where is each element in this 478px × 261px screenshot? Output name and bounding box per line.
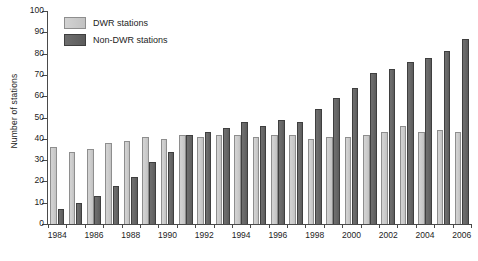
bar-dwr-2001 [363, 135, 370, 224]
y-axis-tick-label: 40 [35, 133, 44, 143]
bar-chart: Number of stations 010203040506070809010… [0, 0, 478, 261]
x-axis-tick-label: 2006 [452, 230, 471, 240]
x-axis-tick-mark [250, 224, 251, 228]
bar-non-dwr-2001 [370, 73, 377, 224]
y-axis-tick-label: 10 [35, 197, 44, 207]
bar-non-dwr-2003 [407, 62, 414, 224]
legend-item-dwr: DWR stations [64, 16, 168, 29]
x-axis-tick-mark [269, 224, 270, 228]
y-axis-tick-label: 50 [35, 112, 44, 122]
x-axis-tick-mark [140, 224, 141, 228]
x-axis-tick-label: 1992 [195, 230, 214, 240]
x-axis-tick-mark [361, 224, 362, 228]
bar-dwr-1994 [234, 135, 241, 224]
bar-non-dwr-1984 [58, 209, 65, 224]
bar-non-dwr-2000 [352, 88, 359, 224]
bar-non-dwr-1991 [186, 135, 193, 224]
x-axis-tick-mark [416, 224, 417, 228]
x-axis-tick-mark [453, 224, 454, 228]
x-axis-tick-mark [471, 224, 472, 228]
bar-non-dwr-2002 [389, 69, 396, 224]
bar-dwr-1997 [289, 135, 296, 224]
bar-non-dwr-1995 [260, 126, 267, 224]
x-axis-line [47, 224, 471, 225]
x-axis-tick-mark [103, 224, 104, 228]
x-axis-tick-label: 1986 [85, 230, 104, 240]
bar-dwr-1989 [142, 137, 149, 224]
bar-non-dwr-2006 [462, 39, 469, 224]
bar-dwr-1995 [253, 137, 260, 224]
bar-dwr-1991 [179, 135, 186, 224]
bar-non-dwr-1999 [333, 98, 340, 224]
x-axis-tick-label: 1996 [268, 230, 287, 240]
y-axis-line [47, 11, 48, 225]
bar-non-dwr-1986 [94, 196, 101, 224]
bar-dwr-2005 [437, 130, 444, 224]
x-axis-tick-mark [195, 224, 196, 228]
bar-non-dwr-1993 [223, 128, 230, 224]
y-axis-tick-label: 60 [35, 90, 44, 100]
bar-dwr-2006 [455, 132, 462, 224]
y-axis-title: Number of stations [9, 46, 19, 176]
x-axis-tick-mark [122, 224, 123, 228]
x-axis-tick-label: 2004 [416, 230, 435, 240]
bar-dwr-2003 [400, 126, 407, 224]
bar-non-dwr-1987 [113, 186, 120, 224]
bar-dwr-1986 [87, 149, 94, 224]
bar-dwr-1998 [308, 139, 315, 224]
x-axis-tick-label: 1984 [48, 230, 67, 240]
bar-dwr-1985 [69, 152, 76, 224]
bar-non-dwr-2005 [444, 51, 451, 224]
bar-non-dwr-1997 [297, 122, 304, 224]
bar-dwr-1988 [124, 141, 131, 224]
bar-non-dwr-1996 [278, 120, 285, 224]
legend-item-non-dwr: Non-DWR stations [64, 33, 168, 46]
bar-non-dwr-1992 [205, 132, 212, 224]
y-axis-tick-label: 70 [35, 69, 44, 79]
bar-dwr-1993 [216, 135, 223, 224]
bar-dwr-2004 [418, 132, 425, 224]
x-axis-tick-mark [177, 224, 178, 228]
x-axis-tick-mark [214, 224, 215, 228]
bar-non-dwr-1990 [168, 152, 175, 224]
legend-swatch-non-dwr-icon [64, 34, 86, 46]
legend-label-dwr: DWR stations [93, 18, 148, 28]
x-axis-tick-mark [434, 224, 435, 228]
x-axis-tick-mark [287, 224, 288, 228]
x-axis-tick-mark [232, 224, 233, 228]
x-axis-tick-label: 2002 [379, 230, 398, 240]
chart-legend: DWR stations Non-DWR stations [64, 16, 168, 50]
bar-non-dwr-1985 [76, 203, 83, 224]
x-axis-tick-mark [48, 224, 49, 228]
bar-non-dwr-1988 [131, 177, 138, 224]
x-axis-tick-label: 1990 [158, 230, 177, 240]
x-axis-tick-mark [66, 224, 67, 228]
x-axis-tick-mark [324, 224, 325, 228]
bar-dwr-1992 [197, 137, 204, 224]
bar-non-dwr-1994 [241, 122, 248, 224]
x-axis-tick-label: 2000 [342, 230, 361, 240]
x-axis-tick-mark [379, 224, 380, 228]
bar-dwr-1990 [161, 139, 168, 224]
x-axis-tick-mark [342, 224, 343, 228]
y-axis-tick-label: 20 [35, 175, 44, 185]
x-axis-tick-label: 1988 [121, 230, 140, 240]
bar-non-dwr-1998 [315, 109, 322, 224]
bar-non-dwr-1989 [149, 162, 156, 224]
legend-swatch-dwr-icon [64, 17, 86, 29]
y-axis-tick-label: 30 [35, 154, 44, 164]
y-axis-tick-label: 80 [35, 48, 44, 58]
bar-dwr-1999 [326, 137, 333, 224]
y-axis-tick-label: 0 [39, 218, 44, 228]
bar-dwr-1984 [50, 147, 57, 224]
x-axis-tick-label: 1994 [232, 230, 251, 240]
y-axis-tick-label: 90 [35, 26, 44, 36]
bar-dwr-2000 [345, 137, 352, 224]
bar-dwr-1987 [105, 143, 112, 224]
bar-dwr-1996 [271, 135, 278, 224]
x-axis-tick-mark [158, 224, 159, 228]
x-axis-tick-mark [397, 224, 398, 228]
x-axis-tick-mark [85, 224, 86, 228]
bar-non-dwr-2004 [425, 58, 432, 224]
x-axis-tick-label: 1998 [305, 230, 324, 240]
